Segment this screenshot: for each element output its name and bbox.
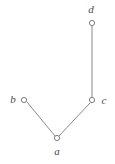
graph-diagram-canvas: dcba bbox=[0, 0, 115, 164]
node-b[interactable] bbox=[21, 97, 26, 102]
node-label-a: a bbox=[54, 146, 60, 157]
node-a[interactable] bbox=[54, 135, 59, 140]
node-label-b: b bbox=[10, 94, 16, 105]
node-d[interactable] bbox=[89, 20, 94, 25]
edge-b-a bbox=[27, 102, 55, 136]
edge-a-c bbox=[59, 103, 90, 136]
node-label-c: c bbox=[102, 95, 107, 106]
nodes-group bbox=[21, 20, 94, 140]
graph-svg bbox=[0, 0, 115, 164]
node-c[interactable] bbox=[89, 97, 94, 102]
edges-group bbox=[27, 26, 92, 136]
node-label-d: d bbox=[88, 4, 94, 15]
